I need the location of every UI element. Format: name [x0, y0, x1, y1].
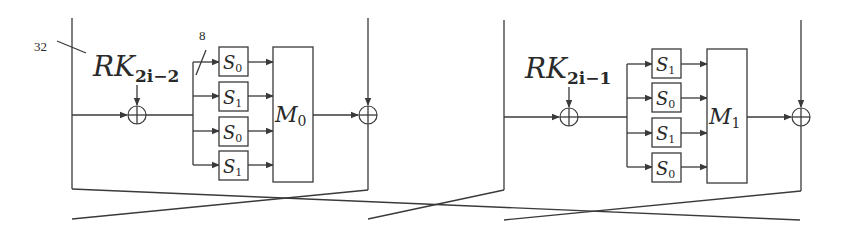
round-key-label-1: RK2i−1 [524, 52, 611, 88]
sbox-0-0: S0 [219, 47, 248, 76]
matrix-m1: M1 [707, 49, 747, 183]
xor-output-1 [792, 108, 810, 126]
perm-line-b [72, 190, 368, 219]
round-key-label-0: RK2i−2 [92, 50, 179, 86]
block-f0: 32 RK2i−2 8 S0 S1 [34, 18, 377, 190]
word-permutation [72, 189, 801, 220]
xor-key-1 [560, 108, 578, 126]
perm-line-d [504, 191, 801, 220]
sbox-0-2: S0 [219, 117, 248, 146]
xor-output-0 [359, 106, 377, 124]
feistel-diagram: 32 RK2i−2 8 S0 S1 [0, 0, 841, 236]
sbox-1-2: S1 [652, 118, 681, 147]
matrix-m0: M0 [273, 47, 313, 182]
sbox-0-3: S1 [219, 151, 248, 180]
sbox-0-1: S1 [219, 82, 248, 111]
bus-width-label-32: 32 [34, 39, 47, 54]
sbox-1-0: S1 [652, 49, 681, 78]
bus-width-label-8: 8 [199, 28, 206, 43]
xor-key-0 [128, 106, 146, 124]
sbox-1-3: S0 [652, 153, 681, 182]
block-f1: RK2i−1 S1 S0 S1 S0 [504, 20, 810, 191]
perm-line-c [368, 190, 504, 219]
sbox-1-1: S0 [652, 83, 681, 112]
